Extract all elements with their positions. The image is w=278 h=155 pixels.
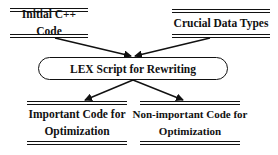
input-crucial-data-types: Crucial Data Types xyxy=(172,9,270,38)
output-important-line2: Optimization xyxy=(44,123,109,140)
output-nonimportant-code: Non-important Code for Optimization xyxy=(140,101,240,145)
arrow-initial-to-lex xyxy=(55,38,131,56)
input-initial-code: Initial C++ Code xyxy=(10,8,88,38)
process-lex-script: LEX Script for Rewriting xyxy=(38,57,228,80)
process-lex-script-label: LEX Script for Rewriting xyxy=(70,63,196,75)
arrow-lex-to-important xyxy=(85,80,133,100)
output-nonimportant-line2: Optimization xyxy=(159,123,221,140)
output-important-code: Important Code for Optimization xyxy=(27,101,127,145)
arrow-lex-to-nonimportant xyxy=(133,80,183,100)
input-crucial-data-types-label: Crucial Data Types xyxy=(174,15,269,32)
arrow-types-to-lex xyxy=(135,38,210,56)
input-initial-code-label: Initial C++ Code xyxy=(10,6,88,40)
output-important-line1: Important Code for xyxy=(28,106,125,123)
output-nonimportant-line1: Non-important Code for xyxy=(133,106,248,123)
